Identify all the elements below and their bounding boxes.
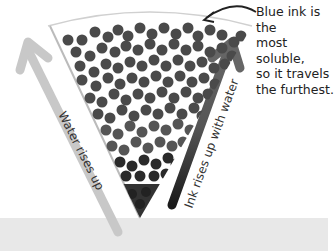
callout-text: Blue ink is the most soluble, so it trav… xyxy=(256,4,336,97)
water-rises-label: Water rises up xyxy=(55,109,107,192)
paper-edge xyxy=(48,12,252,26)
